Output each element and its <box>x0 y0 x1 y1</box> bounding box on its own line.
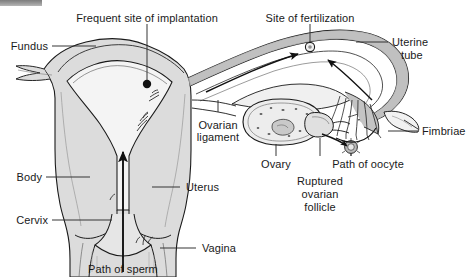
label-ruptured-ovarian-follicle-line1: Ruptured <box>297 175 343 187</box>
label-body: Body <box>17 171 42 183</box>
label-fundus: Fundus <box>11 40 48 52</box>
path-of-oocyte-arrow <box>322 134 347 146</box>
label-ovary: Ovary <box>261 158 291 170</box>
label-uterus: Uterus <box>186 181 219 193</box>
label-fimbriae: Fimbriae <box>422 125 466 137</box>
label-cervix: Cervix <box>16 214 48 226</box>
label-path-of-sperm: Path of sperm <box>88 263 158 275</box>
label-vagina: Vagina <box>202 242 236 254</box>
fertilization-site-marker <box>305 42 314 51</box>
label-ovarian-ligament-line1: Ovarian <box>198 119 237 131</box>
figure-root: Frequent site of implantation Fundus Sit… <box>0 0 474 277</box>
label-frequent-site-of-implantation: Frequent site of implantation <box>76 12 218 24</box>
label-path-of-oocyte: Path of oocyte <box>332 158 404 170</box>
label-ovarian-ligament-line2: ligament <box>197 131 239 143</box>
implantation-site-dot <box>143 80 151 88</box>
label-site-of-fertilization: Site of fertilization <box>266 12 355 24</box>
uterus-organ <box>44 39 191 277</box>
label-ruptured-ovarian-follicle-line2: ovarian <box>302 188 339 200</box>
label-ruptured-ovarian-follicle-line3: follicle <box>304 201 335 213</box>
label-uterine-tube-line1: Uterine <box>392 36 428 48</box>
label-uterine-tube-line2: tube <box>401 49 423 61</box>
ruptured-follicle <box>305 112 350 137</box>
